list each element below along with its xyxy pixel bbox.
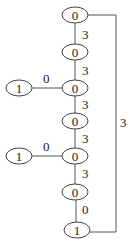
edge-label-n5-n6: 3 [82, 166, 89, 181]
node-label: 0 [72, 185, 79, 200]
node-label: 0 [72, 8, 79, 23]
node-l1: 1 [6, 80, 32, 96]
edge-label-l2-n5: 0 [43, 139, 50, 154]
node-n1: 0 [62, 7, 88, 23]
edge-label-n6-n7: 0 [82, 202, 89, 217]
node-n5: 0 [62, 148, 88, 164]
edge-label-n3-n4: 3 [82, 97, 89, 112]
edge-label-n1-n2: 3 [82, 27, 89, 42]
node-n2: 0 [62, 44, 88, 60]
node-label: 0 [72, 149, 79, 164]
node-label: 1 [74, 223, 81, 238]
edge-label-n1-n7: 3 [120, 115, 127, 130]
node-label: 0 [72, 45, 79, 60]
edge-label-n2-n3: 3 [82, 63, 89, 78]
node-n6: 0 [62, 184, 88, 200]
node-label: 1 [16, 149, 23, 164]
node-label: 0 [72, 81, 79, 96]
node-l2: 1 [6, 148, 32, 164]
edge-label-l1-n3: 0 [43, 71, 50, 86]
node-label: 0 [72, 114, 79, 129]
node-n4: 0 [62, 113, 88, 129]
diagram-canvas: 3 3 0 3 3 0 3 0 3 0 0 0 0 0 0 1 1 [0, 0, 136, 247]
node-n3: 0 [62, 80, 88, 96]
edge-n1-n7 [88, 15, 116, 232]
node-label: 1 [16, 81, 23, 96]
node-n7: 1 [64, 222, 90, 238]
edge-label-n4-n5: 3 [82, 131, 89, 146]
